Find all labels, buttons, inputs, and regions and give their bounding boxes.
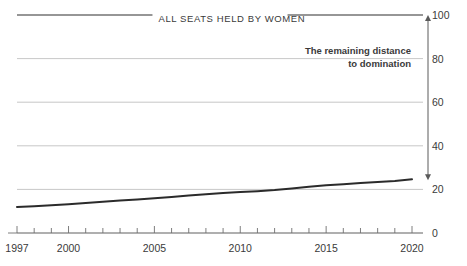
domination-distance-arrow	[425, 15, 431, 180]
y-tick-label: 0	[432, 227, 438, 239]
chart-container: 020406080100 199720002005201020152020 AL…	[0, 0, 467, 266]
x-tick-label: 2015	[314, 242, 338, 254]
y-tick-label: 100	[432, 9, 450, 21]
series-path	[17, 179, 412, 207]
top-reference-label: ALL SEATS HELD BY WOMEN	[158, 13, 305, 24]
x-tick-label: 2000	[57, 242, 81, 254]
x-tick-label: 2010	[229, 242, 253, 254]
y-tick-label: 40	[432, 140, 444, 152]
x-axis-labels: 199720002005201020152020	[5, 242, 424, 254]
line-chart: 020406080100 199720002005201020152020	[0, 0, 467, 266]
gridlines	[17, 59, 423, 233]
y-axis-labels: 020406080100	[432, 9, 450, 239]
x-tick-label: 1997	[5, 242, 29, 254]
annotation-line-1: The remaining distance	[305, 44, 411, 57]
y-tick-label: 20	[432, 183, 444, 195]
x-tick-label: 2020	[400, 242, 424, 254]
y-tick-label: 80	[432, 53, 444, 65]
y-tick-label: 60	[432, 96, 444, 108]
top-reference-label-holder: ALL SEATS HELD BY WOMEN	[158, 8, 305, 26]
data-series-line	[17, 179, 412, 207]
x-axis	[8, 226, 423, 233]
annotation-line-2: to domination	[305, 57, 411, 70]
annotation-remaining-distance: The remaining distance to domination	[305, 44, 411, 70]
x-tick-label: 2005	[143, 242, 167, 254]
